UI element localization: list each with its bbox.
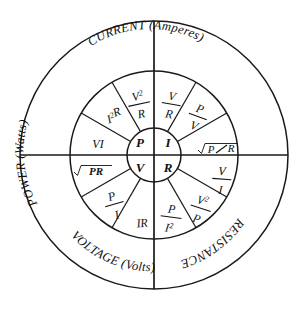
formula-current-pv-num: P	[193, 101, 206, 117]
quadrant-label-current: CURRENT (Amperes)	[85, 18, 206, 49]
formula-resistance-pi2-den: I2	[163, 220, 174, 235]
ohm-law-wheel-diagram: P I V R POWER (Watts) CURRENT (Amperes) …	[0, 0, 307, 325]
formula-resistance-vi-bar	[212, 178, 231, 179]
quadrant-label-current-text: CURRENT (Amperes)	[85, 18, 206, 49]
formula-current-sqrt-p-over-r: P R	[198, 142, 238, 155]
formula-current-vr-den: R	[163, 106, 174, 121]
formula-current-sqrt-den: R	[227, 142, 235, 154]
formula-power-vi: VI	[92, 137, 104, 151]
quadrant-label-power-text: POWER (Watts)	[13, 118, 41, 210]
formula-power-v2r: V2 R	[125, 87, 153, 123]
formula-current-sqrt-num: P	[207, 143, 215, 155]
formula-voltage-sqrt-pr-text: PR	[89, 165, 103, 177]
quadrant-label-resistance-text: RESISTANCE (Ohms)	[0, 0, 248, 272]
formula-voltage-pi-num: P	[105, 189, 118, 205]
formula-power-vi-text: VI	[92, 137, 104, 151]
formula-power-i2r-num: I2R	[102, 104, 125, 127]
hub-symbol-power: P	[136, 135, 145, 150]
quadrant-label-power: POWER (Watts)	[13, 118, 41, 210]
formula-voltage-sqrt-pr: PR	[74, 165, 112, 177]
formula-resistance-pi2: P I2	[158, 201, 183, 237]
formula-power-v2r-num: V2	[131, 88, 145, 104]
wheel-canvas: P I V R POWER (Watts) CURRENT (Amperes) …	[0, 0, 307, 325]
spoke-current-2	[177, 113, 226, 142]
formula-voltage-ir: IR	[135, 215, 149, 230]
formula-current-sqrt-slash	[216, 145, 227, 153]
formula-power-v2r-den: R	[135, 106, 147, 122]
formula-current-pv-den: V	[188, 118, 201, 134]
formula-resistance-v2p-num: V2	[195, 192, 210, 209]
hub-symbol-voltage: V	[136, 160, 146, 175]
quadrant-label-resistance: RESISTANCE (Ohms)	[0, 0, 248, 272]
formula-resistance-pi2-num: P	[166, 202, 177, 217]
formula-voltage-pi-den: I	[112, 207, 122, 222]
formula-resistance-v2p: V2 P	[185, 191, 215, 229]
formula-power-i2r: I2R	[102, 104, 125, 127]
formula-resistance-vi-num: V	[218, 164, 228, 179]
hub-symbol-resistance: R	[163, 160, 173, 175]
formula-current-vr-num: V	[167, 89, 178, 104]
formula-voltage-ir-text: IR	[135, 215, 149, 230]
formula-current-vr: V R	[159, 88, 183, 123]
hub-symbol-current: I	[164, 135, 171, 150]
